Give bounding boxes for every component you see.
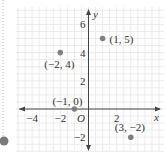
x-axis-label: x bbox=[153, 111, 159, 123]
y-tick-label: 4 bbox=[80, 47, 86, 59]
data-point bbox=[100, 36, 106, 42]
y-tick-label: 6 bbox=[80, 18, 86, 30]
y-axis-label: y bbox=[92, 8, 98, 20]
y-axis-up-arrow-icon bbox=[86, 9, 91, 15]
data-point bbox=[72, 106, 78, 112]
data-point bbox=[58, 50, 64, 56]
x-tick-label: −2 bbox=[54, 112, 66, 124]
data-point-label: (3, −2) bbox=[115, 121, 145, 134]
margin-marker-dot bbox=[0, 137, 9, 146]
data-point bbox=[128, 134, 134, 140]
x-tick-label: −4 bbox=[26, 112, 38, 124]
y-axis-down-arrow-icon bbox=[86, 145, 91, 151]
x-axis-left-arrow-icon bbox=[19, 107, 25, 112]
data-point-label: (1, 5) bbox=[110, 33, 134, 46]
data-point-label: (−1, 0) bbox=[52, 95, 82, 108]
margin-decoration bbox=[0, 0, 9, 146]
y-tick-label: 2 bbox=[80, 75, 86, 87]
data-point-label: (−2, 4) bbox=[44, 58, 74, 71]
y-tick-label: −2 bbox=[74, 131, 86, 143]
origin-label: O bbox=[77, 112, 85, 124]
coordinate-plane: xyO−4−22642−2 (1, 5)(−2, 4)(−1, 0)(3, −2… bbox=[0, 0, 166, 154]
